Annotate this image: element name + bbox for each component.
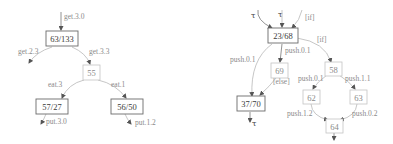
- edge-label-eat-1: eat.1: [111, 80, 126, 89]
- edge-label-if-58: [if]: [317, 35, 327, 44]
- edge-label-put-1-2: put.1.2: [135, 118, 156, 127]
- node-57-27: 57/27: [36, 99, 68, 114]
- edge-label-push-0-2: push.0.2: [352, 109, 378, 118]
- svg-text:56/50: 56/50: [117, 102, 136, 112]
- edge-if-in: [292, 10, 302, 28]
- edge-label-push-0-1-b: push.0.1: [285, 46, 311, 55]
- edge-put-1-2: [125, 114, 131, 124]
- node-55: 55: [83, 65, 100, 80]
- edge-label-tau-1: τ: [251, 11, 256, 20]
- node-63-133: 63/133: [46, 31, 78, 46]
- node-69: 69: [271, 63, 288, 78]
- node-63: 63: [350, 90, 367, 104]
- edge-label-put-3-0: put.3.0: [46, 117, 67, 126]
- edge-label-push-0-1-c: push.0.1: [298, 74, 324, 83]
- node-23-68: 23/68: [268, 28, 298, 43]
- svg-text:23/68: 23/68: [273, 31, 292, 41]
- node-58: 58: [325, 62, 342, 76]
- edge-label-eat-3: eat.3: [48, 80, 63, 89]
- edge-label-push-1-2: push.1.2: [287, 109, 313, 118]
- edge-eat-3: [62, 80, 84, 98]
- svg-text:63: 63: [354, 93, 363, 103]
- edge-label-get-2-3: get.2.3: [18, 47, 39, 56]
- diagram-canvas: get.3.0 get.2.3 get.3.3 eat.3 eat.1 put.…: [0, 0, 393, 144]
- edge-label-if-in: [if]: [305, 13, 315, 22]
- edge-push-0-1-a: [252, 44, 272, 96]
- edge-push-1-2: [311, 104, 328, 120]
- node-64: 64: [326, 119, 343, 133]
- edge-label-get-3-3: get.3.3: [89, 47, 110, 56]
- svg-text:37/70: 37/70: [241, 99, 260, 109]
- svg-text:62: 62: [307, 93, 316, 103]
- edge-label-push-1-1: push.1.1: [345, 74, 371, 83]
- svg-text:64: 64: [330, 122, 339, 132]
- svg-text:58: 58: [329, 65, 338, 75]
- svg-text:63/133: 63/133: [50, 34, 74, 44]
- edge-get-3-3: [72, 47, 90, 64]
- node-62: 62: [303, 90, 320, 104]
- svg-text:69: 69: [275, 66, 284, 76]
- svg-text:57/27: 57/27: [42, 102, 61, 112]
- node-56-50: 56/50: [111, 99, 143, 114]
- node-37-70: 37/70: [237, 96, 265, 111]
- edge-label-push-0-1-a: push.0.1: [230, 55, 256, 64]
- edge-label-tau-out: τ: [252, 119, 257, 128]
- left-diagram: get.3.0 get.2.3 get.3.3 eat.3 eat.1 put.…: [18, 12, 156, 127]
- edge-tau-1: [258, 10, 272, 28]
- right-diagram: τ τ [if] push.0.1 push.0.1 [if] [else] τ…: [230, 10, 378, 140]
- svg-text:55: 55: [87, 68, 96, 78]
- edge-label-get-3-0: get.3.0: [64, 12, 85, 21]
- edge-push-0-1-b: [280, 44, 282, 62]
